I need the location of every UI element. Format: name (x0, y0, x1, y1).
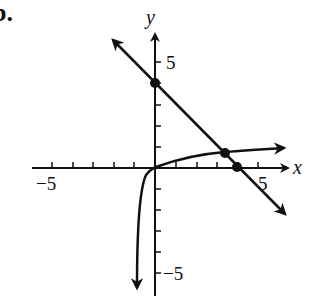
point-y-intercept (150, 78, 160, 88)
y-axis: y 5 −5 (144, 6, 183, 296)
line-curve (113, 40, 285, 214)
point-x-intercept (232, 162, 242, 172)
x-axis: x −5 5 (32, 156, 302, 194)
y-tick-label-5: 5 (166, 52, 176, 73)
x-axis-label: x (292, 156, 302, 178)
y-axis-label: y (144, 6, 155, 29)
y-tick-label-neg5: −5 (163, 263, 183, 284)
graph: x −5 5 y 5 −5 (0, 0, 309, 299)
x-tick-label-neg5: −5 (36, 173, 56, 194)
point-intersection (220, 148, 230, 158)
